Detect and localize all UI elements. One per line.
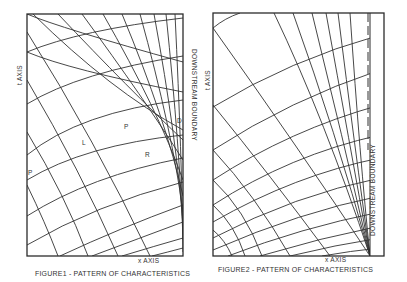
figure-1-point-p-upper: P bbox=[124, 123, 128, 130]
figure-2-characteristic-grid bbox=[213, 13, 382, 256]
figure-2-t-axis-label: t AXIS bbox=[204, 70, 211, 90]
figure-1-t-axis-label: t AXIS bbox=[16, 65, 23, 85]
figure-1-point-r: R bbox=[145, 151, 150, 158]
figure-1-point-p-left: P bbox=[28, 169, 32, 176]
figure-1-point-d: D bbox=[177, 117, 182, 124]
figure-2-caption: FIGURE2 - PATTERN OF CHARACTERISTICS bbox=[218, 266, 373, 273]
figure-1-characteristic-grid bbox=[27, 14, 183, 256]
figure-2-boundary-label: DOWNSTREAM BOUNDARY bbox=[369, 144, 376, 236]
figure-2: t AXIS DOWNSTREAM BOUNDARY x AXIS FIGURE… bbox=[204, 13, 384, 273]
figure-1-boundary-label: DOWNSTREAM BOUNDARY bbox=[191, 49, 198, 141]
figure-2-x-axis-label: x AXIS bbox=[325, 256, 347, 263]
figure-1-x-axis-label: x AXIS bbox=[138, 257, 160, 264]
figure-1-frame bbox=[27, 14, 183, 256]
figure-1-caption: FIGURE1 - PATTERN OF CHARACTERISTICS bbox=[35, 270, 190, 277]
figure-1: t AXIS DOWNSTREAM BOUNDARY x AXIS FIGURE… bbox=[16, 14, 198, 277]
characteristics-figures: t AXIS DOWNSTREAM BOUNDARY x AXIS FIGURE… bbox=[0, 0, 407, 282]
figure-1-point-l: L bbox=[82, 139, 86, 146]
